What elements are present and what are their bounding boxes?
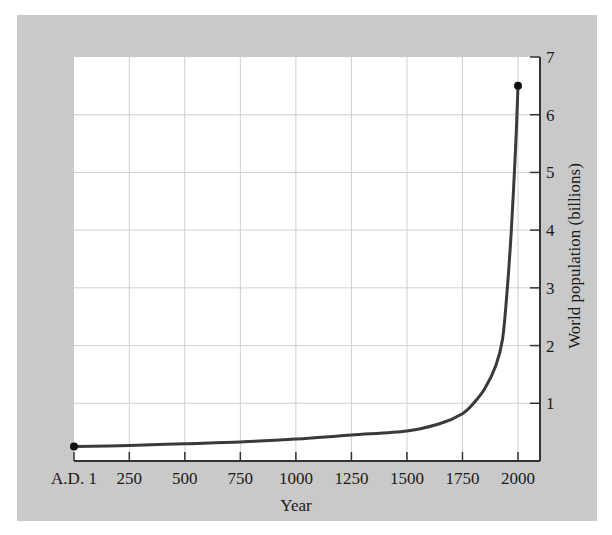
plot-area [74, 57, 540, 461]
x-tick-label: 250 [117, 469, 143, 488]
x-tick-label: A.D. 1 [51, 469, 97, 488]
y-tick-labels: 1234567 [546, 48, 555, 413]
y-tick-label: 6 [546, 106, 555, 125]
y-axis-title: World population (billions) [565, 163, 584, 349]
y-tick-label: 7 [546, 48, 555, 67]
x-tick-label: 500 [172, 469, 198, 488]
x-tick-label: 750 [228, 469, 254, 488]
x-axis-title: Year [280, 496, 312, 515]
x-tick-label: 1750 [445, 469, 479, 488]
y-tick-label: 4 [546, 221, 555, 240]
population-chart: A.D. 125050075010001250150017502000 1234… [0, 0, 612, 535]
x-tick-label: 2000 [501, 469, 535, 488]
x-tick-labels: A.D. 125050075010001250150017502000 [51, 469, 535, 488]
x-tick-label: 1000 [279, 469, 313, 488]
y-tick-label: 2 [546, 337, 555, 356]
x-tick-label: 1250 [334, 469, 368, 488]
y-tick-label: 1 [546, 394, 555, 413]
endpoint-dot [514, 82, 522, 90]
x-tick-label: 1500 [390, 469, 424, 488]
endpoint-dot [70, 443, 78, 451]
y-tick-label: 5 [546, 163, 555, 182]
y-tick-label: 3 [546, 279, 555, 298]
